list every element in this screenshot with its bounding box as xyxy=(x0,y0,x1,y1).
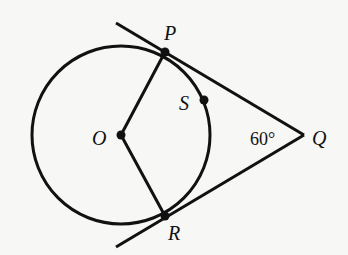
tangent-line-pq xyxy=(116,23,304,135)
label-p: P xyxy=(163,22,176,44)
point-p xyxy=(161,48,170,57)
label-r: R xyxy=(167,222,180,244)
point-r xyxy=(161,212,170,221)
tangent-line-rq xyxy=(116,135,304,247)
point-o xyxy=(117,131,126,140)
point-s xyxy=(200,96,209,105)
label-o: O xyxy=(92,127,106,149)
angle-label-q: 60° xyxy=(250,129,275,149)
label-q: Q xyxy=(312,127,327,149)
radius-op xyxy=(121,52,165,135)
label-s: S xyxy=(179,92,189,114)
radius-or xyxy=(121,135,165,216)
geometry-diagram: P O S Q R 60° xyxy=(0,0,348,255)
